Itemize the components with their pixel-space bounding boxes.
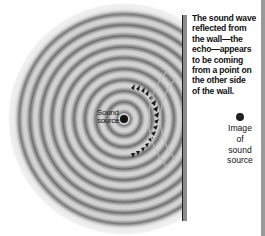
arrowhead-icon xyxy=(141,87,145,93)
arrowhead-icon xyxy=(136,85,140,91)
sound-wave-field xyxy=(0,0,184,236)
arrowhead-icon xyxy=(131,153,135,158)
arrowhead-icon xyxy=(154,112,159,118)
reflecting-wall xyxy=(182,15,187,221)
explanation-caption: The sound wave reflected from the wall—t… xyxy=(192,13,262,96)
sound-source-dot xyxy=(120,115,128,123)
echo-diagram: Sound source The sound wave reflected fr… xyxy=(0,0,265,236)
arrowhead-icon xyxy=(131,84,135,90)
arrowhead-icon xyxy=(145,143,149,148)
arrowhead-icon xyxy=(136,151,140,155)
arrowhead-icon xyxy=(151,100,156,106)
arrowhead-icon xyxy=(153,125,158,130)
image-source-label: Image of sound source xyxy=(215,123,265,166)
arrowhead-icon xyxy=(145,90,149,96)
sound-source-label: Sound source xyxy=(97,109,119,125)
arrowhead-icon xyxy=(151,131,156,136)
arrowhead-icon xyxy=(153,106,158,112)
reflected-wave-arrowheads xyxy=(0,0,184,236)
arrowhead-icon xyxy=(141,147,145,152)
arrowhead-icon xyxy=(154,119,159,124)
image-source-dot xyxy=(236,113,244,121)
